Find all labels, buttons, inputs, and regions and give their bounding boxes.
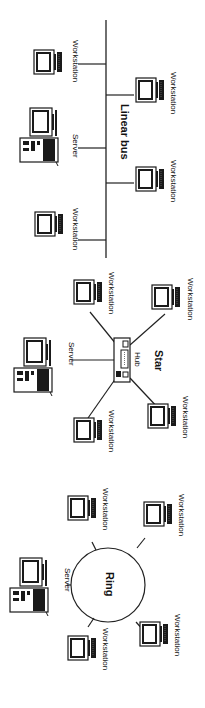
- star-link: [130, 314, 165, 345]
- ring-link: [92, 542, 96, 550]
- node-label: Workstation: [71, 208, 80, 250]
- node-label: Workstation: [101, 488, 110, 530]
- workstation-icon: [152, 285, 180, 309]
- node-label: Workstation: [173, 614, 182, 656]
- server-icon: [20, 108, 58, 166]
- node-label: Workstation: [169, 160, 178, 202]
- ring-link: [88, 618, 94, 627]
- node-label: Server: [63, 568, 72, 592]
- node-label: Server: [71, 134, 80, 158]
- workstation-icon: [35, 212, 63, 236]
- ring-link: [137, 538, 145, 548]
- node-label: Workstation: [107, 272, 116, 314]
- ring-topology: [10, 496, 172, 660]
- workstation-icon: [68, 636, 96, 660]
- node-label: Workstation: [71, 40, 80, 82]
- node-label: Workstation: [107, 410, 116, 452]
- topology-title: Linear bus: [119, 104, 131, 160]
- hub-icon: [114, 338, 130, 382]
- server-icon: [14, 338, 52, 396]
- workstation-icon: [140, 622, 168, 646]
- topology-title: Ring: [104, 572, 116, 596]
- node-label: Server: [67, 342, 76, 366]
- star-link: [90, 312, 116, 344]
- workstation-icon: [34, 50, 62, 74]
- workstation-icon: [136, 78, 164, 102]
- workstation-icon: [74, 418, 102, 442]
- workstation-icon: [74, 280, 102, 304]
- topology-title: Star: [153, 350, 165, 371]
- workstation-icon: [136, 167, 164, 191]
- workstation-icon: [148, 404, 176, 428]
- linear-bus-topology: [20, 20, 164, 258]
- workstation-icon: [68, 496, 96, 520]
- node-label: Workstation: [181, 396, 190, 438]
- node-label: Workstation: [101, 628, 110, 670]
- workstation-icon: [144, 502, 172, 526]
- node-label: Workstation: [177, 494, 186, 536]
- node-label: Workstation: [169, 72, 178, 114]
- hub-label: Hub: [133, 352, 142, 367]
- node-label: Workstation: [186, 278, 195, 320]
- server-icon: [10, 558, 48, 616]
